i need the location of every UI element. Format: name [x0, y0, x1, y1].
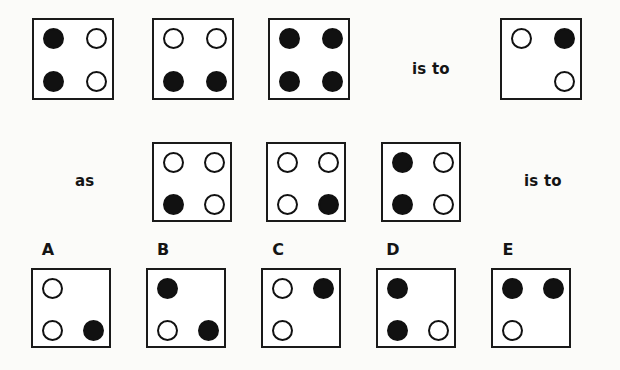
open-circle-bottom-right [204, 194, 225, 215]
filled-circle-bottom-right [318, 194, 339, 215]
filled-circle-bottom-left [163, 194, 184, 215]
open-circle-bottom-right [433, 194, 454, 215]
open-circle-bottom-left [42, 320, 63, 341]
open-circle-bottom-right [428, 320, 449, 341]
option-label-d: D [376, 240, 410, 259]
analogy-row2-box2 [266, 142, 346, 222]
open-circle-bottom-right [86, 71, 107, 92]
option-b[interactable] [146, 268, 226, 348]
premise-row1-box4 [500, 18, 582, 100]
connector-is-to-1: is to [412, 60, 450, 78]
option-e[interactable] [491, 268, 571, 348]
filled-circle-bottom-right [83, 320, 104, 341]
open-circle-bottom-left [277, 194, 298, 215]
filled-circle-top-left [157, 278, 178, 299]
filled-circle-top-left [502, 278, 523, 299]
option-label-c: C [261, 240, 295, 259]
filled-circle-top-left [43, 28, 64, 49]
open-circle-bottom-left [502, 320, 523, 341]
open-circle-top-right [318, 152, 339, 173]
option-a[interactable] [31, 268, 111, 348]
open-circle-top-left [42, 278, 63, 299]
premise-row1-box2 [152, 18, 234, 100]
option-d[interactable] [376, 268, 456, 348]
open-circle-top-right [204, 152, 225, 173]
open-circle-bottom-left [157, 320, 178, 341]
filled-circle-top-right [322, 28, 343, 49]
connector-as: as [75, 172, 94, 190]
filled-circle-bottom-left [392, 194, 413, 215]
premise-row1-box3 [268, 18, 350, 100]
filled-circle-bottom-left [43, 71, 64, 92]
filled-circle-top-left [392, 152, 413, 173]
open-circle-top-left [163, 152, 184, 173]
option-label-b: B [146, 240, 180, 259]
filled-circle-bottom-left [279, 71, 300, 92]
filled-circle-top-right [313, 278, 334, 299]
filled-circle-bottom-right [198, 320, 219, 341]
open-circle-bottom-right [554, 71, 575, 92]
open-circle-top-right [433, 152, 454, 173]
option-label-e: E [491, 240, 525, 259]
premise-row1-box1 [32, 18, 114, 100]
filled-circle-top-right [543, 278, 564, 299]
open-circle-top-left [272, 278, 293, 299]
analogy-row2-box1 [152, 142, 232, 222]
connector-is-to-2: is to [524, 172, 562, 190]
filled-circle-bottom-left [163, 71, 184, 92]
open-circle-top-right [206, 28, 227, 49]
open-circle-bottom-left [272, 320, 293, 341]
filled-circle-bottom-right [206, 71, 227, 92]
open-circle-top-left [163, 28, 184, 49]
analogy-row2-box3 [381, 142, 461, 222]
filled-circle-top-left [387, 278, 408, 299]
option-label-a: A [31, 240, 65, 259]
open-circle-top-left [277, 152, 298, 173]
filled-circle-top-right [554, 28, 575, 49]
open-circle-top-left [511, 28, 532, 49]
puzzle-canvas: is toasis toABCDE [0, 0, 620, 370]
option-c[interactable] [261, 268, 341, 348]
filled-circle-top-left [279, 28, 300, 49]
open-circle-top-right [86, 28, 107, 49]
filled-circle-bottom-left [387, 320, 408, 341]
filled-circle-bottom-right [322, 71, 343, 92]
